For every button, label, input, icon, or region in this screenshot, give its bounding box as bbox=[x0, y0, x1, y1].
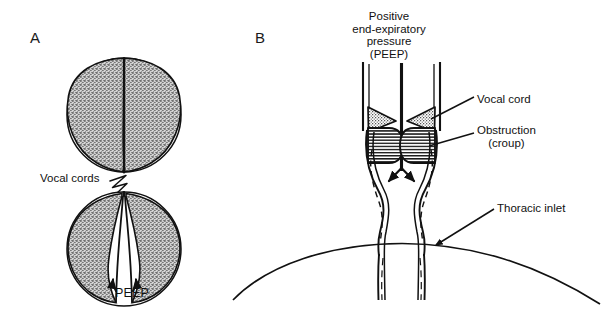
label-obstruction-main: Obstruction bbox=[477, 124, 536, 136]
panel-b-letter: B bbox=[255, 29, 265, 46]
vocal-cord-leader bbox=[431, 97, 474, 119]
label-peep-panel-a: PEEP bbox=[101, 286, 163, 300]
airway-peep-figure bbox=[0, 0, 613, 320]
thoracic-inlet-dome bbox=[233, 244, 600, 305]
right-trachea-outer-lower bbox=[424, 254, 425, 300]
left-vocal-cord-closed bbox=[67, 58, 124, 172]
right-trachea-dashed-lower bbox=[420, 258, 421, 300]
label-obstruction-sub: (croup) bbox=[477, 137, 536, 150]
peep-title: Positive end-expiratory pressure (PEEP) bbox=[328, 10, 450, 60]
label-obstruction: Obstruction (croup) bbox=[477, 124, 536, 149]
panel-a-letter: A bbox=[30, 29, 40, 46]
panel-b bbox=[233, 62, 600, 304]
right-vocal-cord-closed bbox=[123, 58, 180, 172]
peep-title-line-3: pressure bbox=[328, 35, 450, 48]
peep-arrow-left bbox=[389, 168, 402, 181]
panel-a-closed-glottis bbox=[67, 58, 181, 172]
peep-title-line-2: end-expiratory bbox=[328, 23, 450, 36]
label-vocal-cords-panel-a: Vocal cords bbox=[40, 172, 99, 185]
peep-arrow-right bbox=[402, 168, 415, 181]
left-trachea-dashed-lower bbox=[382, 258, 383, 300]
label-vocal-cord-panel-b: Vocal cord bbox=[477, 93, 531, 106]
peep-title-line-4: (PEEP) bbox=[328, 48, 450, 61]
label-thoracic-inlet: Thoracic inlet bbox=[497, 202, 565, 215]
thoracic-inlet-leader bbox=[436, 209, 494, 245]
peep-title-line-1: Positive bbox=[328, 10, 450, 23]
left-trachea-outer-lower bbox=[378, 254, 379, 300]
